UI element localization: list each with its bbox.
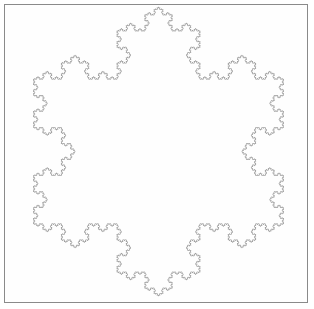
figure-container <box>0 0 314 309</box>
fractal-curve-canvas <box>0 0 314 309</box>
